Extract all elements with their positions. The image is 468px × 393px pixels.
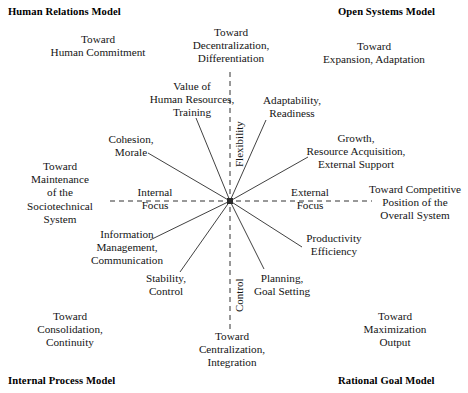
spoke-stability-control xyxy=(180,201,230,272)
quadrant-heading-human-relations-model: Human Relations Model xyxy=(8,6,121,17)
spoke-planning-goal-setting xyxy=(230,201,264,269)
spoke-label-cohesion-morale: Cohesion, Morale xyxy=(94,133,168,159)
spoke-label-planning-goal-setting: Planning, Goal Setting xyxy=(238,272,326,298)
outcome-label-toward-human-commitment: Toward Human Commitment xyxy=(24,33,172,59)
axis-label-flexibility: Flexibility xyxy=(233,121,245,167)
outcome-label-toward-decentralization: Toward Decentralization, Differentiation xyxy=(178,26,284,66)
outcome-label-toward-consolidation-continuity: Toward Consolidation, Continuity xyxy=(12,310,128,350)
axis-label-control: Control xyxy=(233,278,245,312)
outcome-label-toward-expansion-adaptation: Toward Expansion, Adaptation xyxy=(300,40,448,66)
center-hub xyxy=(227,198,233,204)
spoke-label-adaptability-readiness: Adaptability, Readiness xyxy=(248,94,336,120)
spoke-label-information-management-communication: Information Management, Communication xyxy=(78,228,176,268)
spoke-label-value-of-human-resources: Value of Human Resources, Training xyxy=(136,80,248,120)
quadrant-heading-rational-goal-model: Rational Goal Model xyxy=(338,375,435,386)
spoke-label-growth-resource-acquisition: Growth, Resource Acquisition, External S… xyxy=(294,132,418,172)
competing-values-framework-diagram: Human Relations Model Open Systems Model… xyxy=(0,0,468,393)
outcome-label-toward-competitive-position: Toward Competitive Position of the Overa… xyxy=(362,183,468,223)
axis-label-external-focus: External Focus xyxy=(278,186,342,213)
spoke-label-productivity-efficiency: Productivity Efficiency xyxy=(294,232,374,258)
quadrant-heading-internal-process-model: Internal Process Model xyxy=(8,375,115,386)
outcome-label-toward-maintenance-sociotechnical-system: Toward Maintenance of the Sociotechnical… xyxy=(10,160,110,226)
spoke-value-of-human-resources xyxy=(196,118,230,201)
outcome-label-toward-maximization-output: Toward Maximization Output xyxy=(340,310,450,350)
spoke-label-stability-control: Stability, Control xyxy=(130,272,202,298)
axis-label-internal-focus: Internal Focus xyxy=(124,186,186,213)
outcome-label-toward-centralization-integration: Toward Centralization, Integration xyxy=(180,330,284,370)
quadrant-heading-open-systems-model: Open Systems Model xyxy=(338,6,435,17)
